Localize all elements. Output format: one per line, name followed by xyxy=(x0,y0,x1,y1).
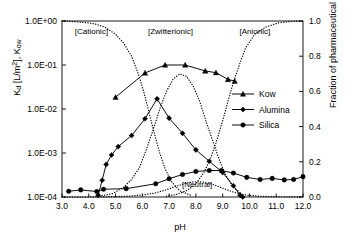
x-tick-label: 10.0 xyxy=(241,201,258,211)
annotation-neutral: [Neutral] xyxy=(182,180,212,189)
y-left-tick-label: 1.0E-04 xyxy=(27,192,57,202)
x-tick-label: 8.0 xyxy=(190,201,202,211)
marker-silica xyxy=(219,168,224,173)
marker-silica xyxy=(231,171,236,176)
x-tick-label: 3.0 xyxy=(56,201,68,211)
legend-group: KowAluminaSilica xyxy=(232,89,290,130)
marker-alumina xyxy=(104,162,109,167)
x-tick-label: 9.0 xyxy=(217,201,229,211)
marker-silica xyxy=(244,175,249,180)
legend-label-silica: Silica xyxy=(259,120,280,130)
legend-label-kow: Kow xyxy=(259,89,276,99)
y-left-tick-label: 1.0E-02 xyxy=(27,104,57,114)
marker-silica xyxy=(301,174,306,179)
marker-silica xyxy=(291,177,296,182)
marker-silica xyxy=(66,189,71,194)
marker-silica xyxy=(207,168,212,173)
marker-silica xyxy=(153,181,158,186)
x-tick-label: 5.0 xyxy=(110,201,122,211)
y-left-tick-label: 1.0E-01 xyxy=(27,60,57,70)
marker-silica xyxy=(124,186,129,191)
y-right-tick-label: 0.6 xyxy=(309,86,321,96)
series-line-alumina xyxy=(98,99,243,197)
chart-canvas: 3.04.05.06.07.08.09.010.011.012.01.0E+00… xyxy=(0,0,359,241)
marker-kow xyxy=(142,70,147,75)
marker-alumina xyxy=(100,178,105,183)
marker-silica xyxy=(194,169,199,174)
y-axis-left-title: Kd [L/m2], Kow xyxy=(11,8,22,128)
chart-figure: 3.04.05.06.07.08.09.010.011.012.01.0E+00… xyxy=(0,0,359,241)
marker-silica xyxy=(78,188,83,193)
y-left-tick-label: 1.0E-03 xyxy=(27,148,57,158)
y-axis-right-title: Fraction of pharmaceutical xyxy=(328,0,338,120)
x-tick-label: 11.0 xyxy=(268,201,284,211)
marker-silica xyxy=(258,177,263,182)
y-right-tick-label: 0.2 xyxy=(309,157,321,167)
annotation-cationic: [Cationic] xyxy=(75,27,108,36)
y-right-tick-label: 0.8 xyxy=(309,51,321,61)
legend-marker-alumina xyxy=(240,107,245,112)
y-right-tick-label: 0.0 xyxy=(309,192,321,202)
legend-label-alumina: Alumina xyxy=(259,105,290,115)
series-line-cationic-fraction xyxy=(62,21,191,195)
marker-silica xyxy=(167,176,172,181)
x-tick-label: 4.0 xyxy=(83,201,95,211)
annotation-zwitterionic: [Zwitterionic] xyxy=(148,27,193,36)
marker-kow xyxy=(225,77,230,82)
series-line-kow xyxy=(116,65,235,97)
marker-alumina xyxy=(154,96,159,101)
annotation-anionic: [Anionic] xyxy=(239,27,270,36)
marker-silica xyxy=(95,189,100,194)
x-tick-label: 6.0 xyxy=(136,201,148,211)
marker-silica xyxy=(101,187,106,192)
marker-silica xyxy=(180,172,185,177)
legend-marker-silica xyxy=(241,123,246,128)
marker-silica xyxy=(270,176,275,181)
y-left-tick-label: 1.0E+00 xyxy=(25,16,57,26)
x-tick-label: 12.0 xyxy=(295,201,312,211)
y-right-tick-label: 1.0 xyxy=(309,16,321,26)
x-tick-label: 7.0 xyxy=(163,201,175,211)
marker-silica xyxy=(282,178,287,183)
y-right-tick-label: 0.4 xyxy=(309,122,321,132)
x-axis-title: pH xyxy=(150,222,210,232)
